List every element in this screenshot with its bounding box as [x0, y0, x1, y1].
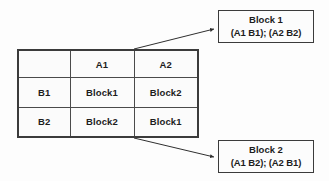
- row-header-b2: B2: [18, 107, 70, 137]
- cell-a2-b2: Block1: [134, 107, 198, 137]
- connector-block1-line: [134, 29, 214, 49]
- callout-block2: Block 2 (A1 B2); (A2 B1): [218, 140, 314, 173]
- callout-block2-title: Block 2: [249, 144, 283, 156]
- table-header-row: A1 A2: [18, 50, 198, 78]
- callout-block1: Block 1 (A1 B1); (A2 B2): [218, 10, 314, 43]
- table-corner-cell: [18, 50, 70, 78]
- table-row: B2 Block2 Block1: [18, 107, 198, 137]
- callout-block1-title: Block 1: [249, 14, 283, 26]
- design-table: A1 A2 B1 Block1 Block2 B2 Block2 Block1: [17, 49, 199, 138]
- table-row: B1 Block1 Block2: [18, 78, 198, 107]
- column-header-a2: A2: [134, 50, 198, 78]
- column-header-a1: A1: [70, 50, 134, 78]
- cell-a1-b1: Block1: [70, 78, 134, 107]
- block-design-diagram: A1 A2 B1 Block1 Block2 B2 Block2 Block1 …: [0, 0, 329, 181]
- callout-block2-detail: (A1 B2); (A2 B1): [231, 156, 302, 169]
- cell-a2-b1: Block2: [134, 78, 198, 107]
- row-header-b1: B1: [18, 78, 70, 107]
- callout-block1-detail: (A1 B1); (A2 B2): [231, 26, 302, 39]
- cell-a1-b2: Block2: [70, 107, 134, 137]
- connector-block2-line: [134, 138, 214, 157]
